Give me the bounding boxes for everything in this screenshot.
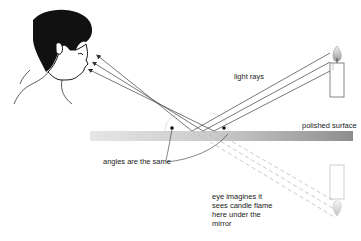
light-rays-label: light rays [234, 72, 264, 81]
virtual-image-label: eye imagines it sees candle flame here u… [212, 192, 272, 228]
polished-surface [90, 131, 353, 141]
light-rays [90, 53, 330, 131]
polished-surface-label: polished surface [302, 121, 357, 130]
angles-same-label: angles are the same [103, 157, 171, 166]
reflection-diagram: light rays polished surface angles are t… [0, 0, 361, 241]
virtual-candle-icon [330, 165, 344, 216]
candle-icon [330, 46, 344, 97]
observer-boy-illustration [14, 10, 92, 104]
